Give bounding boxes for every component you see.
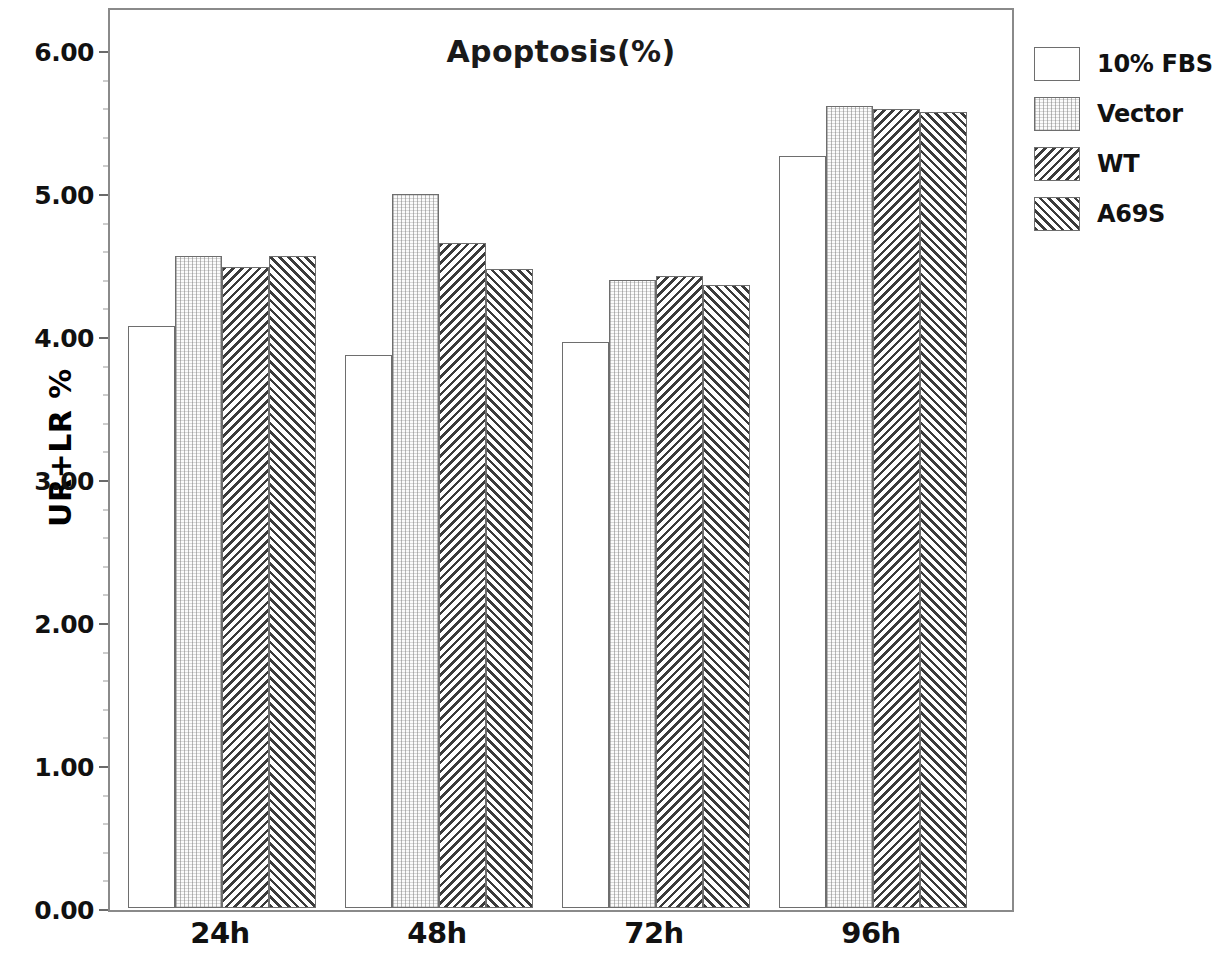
legend-item: WT <box>1034 140 1230 188</box>
legend-item: 10% FBS <box>1034 40 1230 88</box>
legend-item: Vector <box>1034 90 1230 138</box>
y-tick-label: 5.00 <box>34 181 94 210</box>
bar <box>703 285 750 908</box>
apoptosis-bar-chart: UR+LR % 0.001.002.003.004.005.006.00 Apo… <box>0 0 1232 960</box>
bar <box>609 280 656 908</box>
y-tick-label: 6.00 <box>34 38 94 67</box>
bar <box>562 342 609 908</box>
bar <box>392 194 439 908</box>
y-tick-label: 3.00 <box>34 467 94 496</box>
y-tick-mark <box>99 766 108 768</box>
y-tick-label: 1.00 <box>34 753 94 782</box>
bar-group <box>128 8 316 908</box>
y-tick-mark <box>99 337 108 339</box>
legend-label: WT <box>1097 150 1139 178</box>
legend-label: 10% FBS <box>1097 50 1213 78</box>
bar <box>175 256 222 908</box>
bar <box>269 256 316 908</box>
legend-label: Vector <box>1097 100 1183 128</box>
y-tick-label: 4.00 <box>34 324 94 353</box>
legend-item: A69S <box>1034 190 1230 238</box>
bar <box>345 355 392 908</box>
x-tick-label: 24h <box>190 916 250 950</box>
bar-group <box>779 8 967 908</box>
bar <box>779 156 826 908</box>
legend-label: A69S <box>1097 200 1165 228</box>
bar-group <box>345 8 533 908</box>
y-tick-mark <box>99 480 108 482</box>
bar <box>656 276 703 908</box>
bar <box>826 106 873 908</box>
y-tick-mark <box>99 909 108 911</box>
bar <box>920 112 967 909</box>
bar <box>873 109 920 908</box>
bar-group <box>562 8 750 908</box>
bar <box>222 267 269 908</box>
bar <box>439 243 486 908</box>
y-tick-mark <box>99 51 108 53</box>
y-tick-label: 2.00 <box>34 610 94 639</box>
x-tick-label: 72h <box>624 916 684 950</box>
y-tick-mark <box>99 623 108 625</box>
x-tick-label: 96h <box>841 916 901 950</box>
legend-swatch <box>1034 97 1080 131</box>
bars-layer <box>110 10 1012 910</box>
legend-swatch <box>1034 197 1080 231</box>
y-axis-ticks: 0.001.002.003.004.005.006.00 <box>0 0 108 960</box>
legend-swatch <box>1034 47 1080 81</box>
bar <box>486 269 533 908</box>
legend-swatch <box>1034 147 1080 181</box>
x-tick-label: 48h <box>407 916 467 950</box>
plot-area: Apoptosis(%) <box>108 8 1014 912</box>
x-axis-ticks: 24h48h72h96h <box>108 912 1014 960</box>
y-tick-label: 0.00 <box>34 896 94 925</box>
bar <box>128 326 175 908</box>
legend: 10% FBSVectorWTA69S <box>1034 40 1230 240</box>
y-tick-mark <box>99 194 108 196</box>
